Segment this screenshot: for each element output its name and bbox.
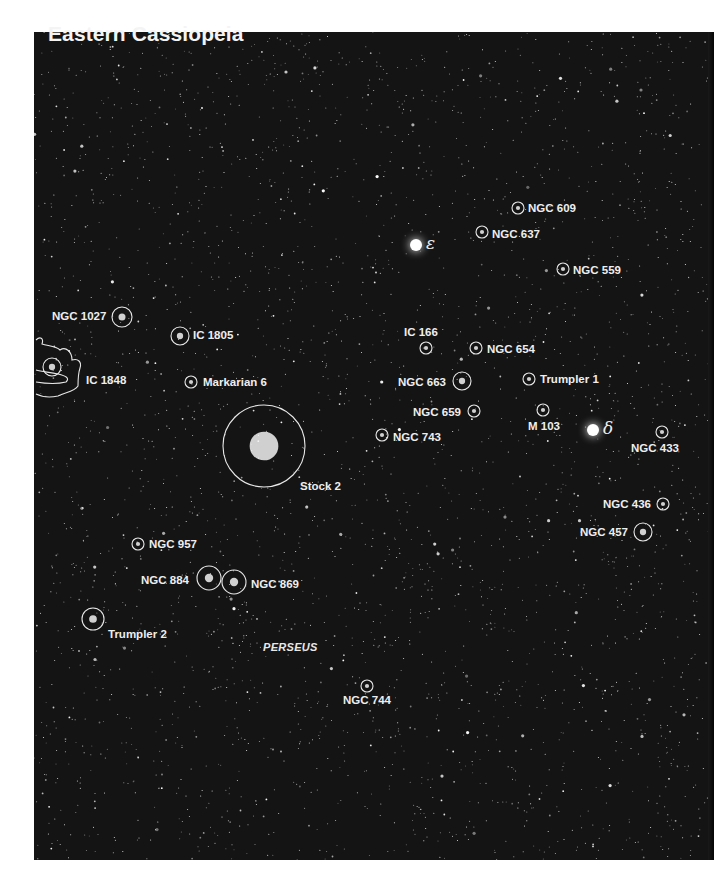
object-label-ngc1027: NGC 1027 (52, 310, 106, 322)
object-core-ngc663 (459, 378, 465, 384)
object-label-ic1848: IC 1848 (86, 374, 126, 386)
object-label-ic1805: IC 1805 (193, 329, 233, 341)
star-symbol-epsilon: ε (426, 233, 435, 253)
object-core-ngc743 (380, 433, 384, 437)
object-core-ngc637 (480, 230, 484, 234)
object-label-trumpler2: Trumpler 2 (108, 628, 167, 640)
object-label-ngc457: NGC 457 (580, 526, 628, 538)
object-label-ngc884: NGC 884 (141, 574, 189, 586)
object-core-ngc884 (205, 574, 213, 582)
object-core-ngc457 (640, 529, 646, 535)
object-core-ngc957 (136, 542, 140, 546)
object-core-ngc436 (661, 502, 665, 506)
star-symbol-delta: δ (603, 418, 613, 438)
object-label-ngc433: NGC 433 (631, 442, 679, 454)
constellation-label-perseus: PERSEUS (263, 641, 318, 653)
object-core-ngc433 (660, 430, 664, 434)
object-label-ngc659: NGC 659 (413, 406, 461, 418)
object-label-m103: M 103 (528, 420, 560, 432)
object-core-trumpler2 (89, 615, 97, 623)
object-core-ic166 (424, 346, 428, 350)
object-core-stock2 (250, 432, 279, 461)
object-core-ngc744 (365, 684, 369, 688)
object-core-ngc869 (230, 578, 238, 586)
object-label-ngc744: NGC 744 (343, 694, 391, 706)
object-core-ngc559 (561, 267, 565, 271)
object-label-ic166: IC 166 (404, 326, 438, 338)
object-label-ngc637: NGC 637 (492, 228, 540, 240)
object-label-markarian6: Markarian 6 (203, 376, 267, 388)
object-core-m103 (541, 408, 545, 412)
object-core-ngc654 (474, 346, 478, 350)
annotation-overlay (0, 0, 714, 891)
object-label-ngc654: NGC 654 (487, 343, 535, 355)
object-label-ngc559: NGC 559 (573, 264, 621, 276)
object-core-ic1805 (177, 333, 183, 339)
object-core-ngc659 (472, 409, 476, 413)
object-label-stock2: Stock 2 (300, 480, 341, 492)
object-core-trumpler1 (527, 377, 531, 381)
star-epsilon (410, 239, 422, 251)
object-core-ic1848 (49, 364, 55, 370)
object-label-ngc957: NGC 957 (149, 538, 197, 550)
object-label-ngc743: NGC 743 (393, 431, 441, 443)
object-label-ngc609: NGC 609 (528, 202, 576, 214)
object-label-ngc663: NGC 663 (398, 376, 446, 388)
object-label-trumpler1: Trumpler 1 (540, 373, 599, 385)
object-core-markarian6 (189, 380, 193, 384)
star-delta (587, 424, 599, 436)
object-core-ngc1027 (119, 314, 126, 321)
object-label-ngc436: NGC 436 (603, 498, 651, 510)
object-core-ngc609 (516, 206, 520, 210)
object-label-ngc869: NGC 869 (251, 578, 299, 590)
